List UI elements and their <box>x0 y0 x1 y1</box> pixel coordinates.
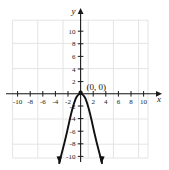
x-axis-label: x <box>156 94 161 104</box>
y-axis-label: y <box>71 6 76 16</box>
vertex-point-marker <box>79 91 83 95</box>
y-tick-label: -6 <box>70 128 76 136</box>
y-tick-label: 2 <box>72 78 76 86</box>
x-tick-label: 8 <box>129 98 133 106</box>
y-tick-label: 4 <box>72 66 76 74</box>
x-tick-label: 4 <box>104 98 108 106</box>
coordinate-plane-chart: -10 -8 -6 -4 -2 2 4 6 8 10 10 8 6 4 2 -2… <box>0 0 169 170</box>
x-tick-label: -6 <box>40 98 46 106</box>
x-tick-label: -10 <box>13 98 23 106</box>
x-tick-label: 6 <box>117 98 121 106</box>
y-tick-label: 6 <box>72 53 76 61</box>
y-tick-label: -10 <box>66 153 76 161</box>
x-tick-label: -4 <box>52 98 58 106</box>
y-tick-label: -8 <box>70 140 76 148</box>
graph-figure: -10 -8 -6 -4 -2 2 4 6 8 10 10 8 6 4 2 -2… <box>0 0 169 170</box>
vertex-point-label: (0, 0) <box>87 82 107 92</box>
x-tick-label: -8 <box>27 98 33 106</box>
y-tick-label: 10 <box>68 28 76 36</box>
x-tick-label: 2 <box>91 98 95 106</box>
x-tick-label: 10 <box>140 98 148 106</box>
y-tick-label: 8 <box>72 40 76 48</box>
